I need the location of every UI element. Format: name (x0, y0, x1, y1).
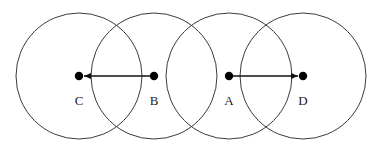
range-circles-diagram: C B A D (0, 0, 382, 151)
node-label-a: A (224, 93, 234, 108)
node-labels: C B A D (75, 93, 308, 108)
node-a (225, 72, 233, 80)
node-b (150, 72, 158, 80)
node-label-d: D (298, 93, 307, 108)
range-circles (16, 13, 366, 139)
node-c (75, 72, 83, 80)
node-label-c: C (75, 93, 84, 108)
node-d (299, 72, 307, 80)
node-label-b: B (150, 93, 159, 108)
